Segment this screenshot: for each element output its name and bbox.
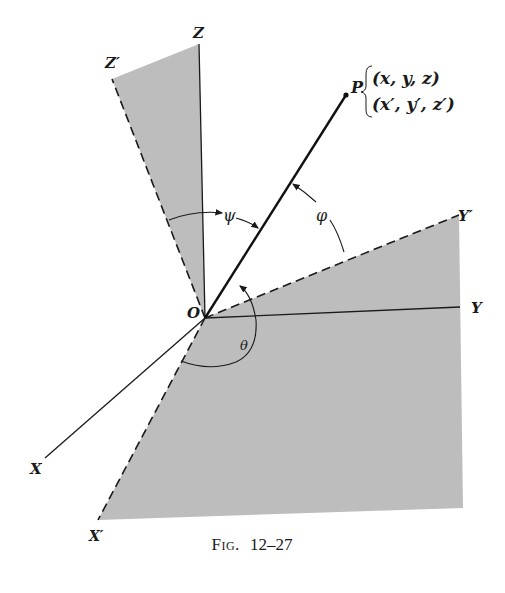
z-plane-shading bbox=[112, 44, 205, 318]
xy-prime-plane-shading bbox=[98, 215, 463, 520]
label-phi: φ bbox=[316, 206, 328, 225]
coords-primed: (x′, y′, z′) bbox=[372, 94, 455, 114]
label-x: X bbox=[29, 460, 43, 478]
label-y: Y bbox=[471, 299, 483, 317]
phi-arc-upper bbox=[293, 184, 316, 202]
label-x-prime: X′ bbox=[88, 528, 104, 544]
figure-caption: Fig. 12–27 bbox=[211, 535, 293, 554]
psi-arc-right bbox=[236, 218, 258, 228]
label-y-prime: Y′ bbox=[458, 207, 473, 225]
caption-prefix: Fig. bbox=[211, 535, 239, 554]
coords-unprimed: (x, y, z) bbox=[372, 68, 440, 88]
coordinate-brace bbox=[361, 66, 372, 117]
coordinate-rotation-diagram: Z Z′ Y Y′ X X′ O P (x, y, z) (x′, y′, z′… bbox=[0, 0, 505, 593]
label-origin: O bbox=[187, 304, 200, 322]
label-z: Z bbox=[192, 24, 205, 42]
label-theta: θ bbox=[240, 338, 248, 353]
label-psi: ψ bbox=[223, 206, 236, 225]
label-point-p: P bbox=[350, 78, 364, 97]
phi-arc-lower bbox=[330, 220, 344, 252]
label-z-prime: Z′ bbox=[104, 54, 120, 72]
caption-number: 12–27 bbox=[250, 535, 293, 554]
point-p-dot bbox=[343, 92, 348, 97]
